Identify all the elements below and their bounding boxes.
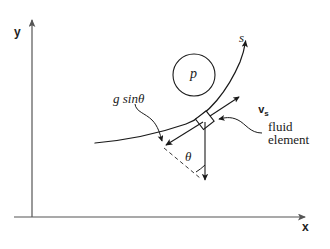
angle-arc	[196, 165, 205, 172]
velocity-subscript: s	[264, 109, 268, 118]
fluid-element-diagram: y x p s g sinθ θ vs fluid element	[0, 0, 330, 249]
velocity-label: vs	[246, 92, 269, 130]
gravity-component-label: g sinθ	[113, 92, 144, 106]
velocity-vector	[210, 97, 239, 116]
streamline-label: s	[239, 31, 244, 45]
pressure-label: p	[190, 67, 197, 82]
gravity-component-vector	[166, 122, 203, 145]
y-axis-label: y	[14, 26, 21, 39]
fluid-element-label-line2: element	[268, 133, 309, 147]
dashed-construction-line	[164, 148, 200, 178]
g-sin-theta-leader	[135, 104, 162, 141]
angle-label: θ	[185, 150, 191, 164]
x-axis-label: x	[302, 221, 309, 234]
